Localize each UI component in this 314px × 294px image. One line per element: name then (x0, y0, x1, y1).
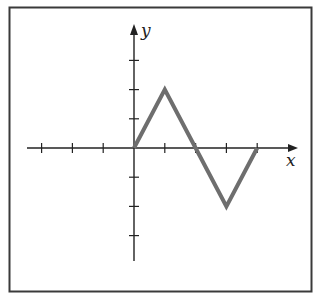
x-axis-label: x (286, 150, 296, 170)
chart: y x (0, 0, 314, 294)
chart-frame (10, 8, 312, 292)
y-axis-label: y (140, 20, 151, 40)
